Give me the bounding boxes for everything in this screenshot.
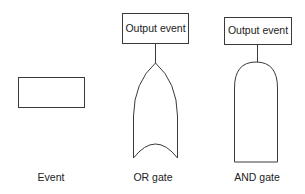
event-symbol: Event [19, 78, 85, 184]
and-gate-shape [235, 62, 278, 162]
and-gate-label: AND gate [234, 171, 280, 183]
or-gate-symbol: Output event OR gate [123, 14, 189, 184]
or-gate-shape [134, 63, 178, 158]
and-gate-symbol: Output event AND gate [225, 18, 292, 184]
event-rectangle [19, 78, 85, 108]
event-label: Event [38, 171, 65, 183]
diagram-svg: Event Output event OR gate Output event … [0, 0, 305, 194]
or-gate-label: OR gate [133, 171, 172, 183]
diagram-canvas: Event Output event OR gate Output event … [0, 0, 305, 194]
or-output-event-label: Output event [125, 22, 185, 34]
and-output-event-label: Output event [228, 24, 288, 36]
